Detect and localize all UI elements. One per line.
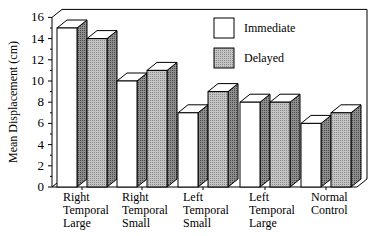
x-category-label: RightTemporalSmall (122, 190, 168, 230)
y-tick-label: 12 (31, 52, 44, 67)
x-category-label: NormalControl (311, 190, 348, 217)
bar (178, 105, 208, 187)
bar (57, 20, 87, 187)
y-tick-label: 2 (38, 158, 45, 173)
y-tick-label: 16 (31, 9, 45, 24)
x-axis-labels: RightTemporalLargeRightTemporalSmallLeft… (63, 190, 348, 230)
bar (87, 31, 117, 187)
x-category-label: LeftTemporalLarge (249, 190, 295, 230)
legend: ImmediateDelayed (214, 18, 295, 68)
bar (331, 105, 361, 187)
bar (270, 94, 300, 187)
bar (147, 62, 177, 187)
legend-label: Delayed (244, 51, 284, 65)
y-tick-label: 0 (38, 179, 45, 194)
bar-chart: 0246810121416 RightTemporalLargeRightTem… (0, 0, 372, 236)
legend-swatch (214, 48, 234, 68)
y-tick-label: 14 (31, 31, 45, 46)
bar (208, 84, 238, 187)
legend-swatch (214, 18, 234, 38)
y-axis: 0246810121416 (31, 9, 52, 194)
bar (117, 73, 147, 187)
y-tick-label: 8 (38, 94, 45, 109)
x-category-label: RightTemporalLarge (63, 190, 109, 230)
legend-label: Immediate (244, 21, 295, 35)
y-tick-label: 4 (38, 137, 45, 152)
y-tick-label: 10 (31, 73, 44, 88)
bar (301, 115, 331, 187)
bars (57, 20, 361, 190)
x-category-label: LeftTemporalSmall (183, 190, 229, 230)
y-tick-label: 6 (38, 115, 45, 130)
bar (240, 94, 270, 187)
y-axis-label: Mean Displacement (cm) (6, 41, 20, 163)
